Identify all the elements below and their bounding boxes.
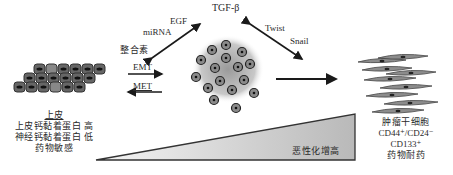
emt-label: EMT [133, 62, 152, 72]
twist-label: Twist [265, 23, 285, 33]
tumor-stem-cells-icon [358, 54, 438, 113]
epithelial-description: 上皮 上皮钙黏着蛋白 高 神经钙黏着蛋白 低 药物敏感 [4, 110, 104, 154]
epithelial-cells-icon [14, 64, 105, 92]
malignancy-increase-label: 恶性化增高 [292, 144, 340, 157]
epithelial-title: 上皮 [4, 110, 104, 121]
stem-cell-title: 肿瘤干细胞 [366, 117, 446, 128]
tgf-beta-label: TGF-β [212, 2, 239, 13]
e-cadherin-line: 上皮钙黏着蛋白 高 [4, 121, 104, 132]
mirna-label: miRNA [143, 27, 172, 37]
cd44-cd24-line: CD44⁺/CD24⁻ [366, 128, 446, 139]
egf-label: EGF [170, 16, 187, 26]
stem-cell-description: 肿瘤干细胞 CD44⁺/CD24⁻ CD133⁺ 药物耐药 [366, 117, 446, 161]
n-cadherin-line: 神经钙黏着蛋白 低 [4, 132, 104, 143]
drug-resistant-line: 药物耐药 [366, 150, 446, 161]
tumor-cell-cluster-icon [192, 35, 265, 113]
cd133-line: CD133⁺ [366, 139, 446, 150]
met-label: MET [133, 81, 152, 91]
drug-sensitive-line: 药物敏感 [4, 143, 104, 154]
integrin-label: 整合素 [120, 43, 149, 56]
snail-label: Snail [290, 36, 309, 46]
